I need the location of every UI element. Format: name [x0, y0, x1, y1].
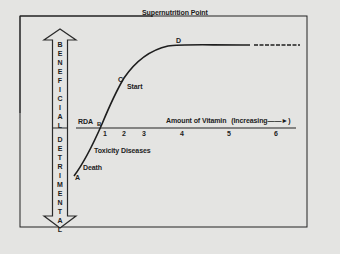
rda-label: RDA — [78, 118, 93, 125]
supernutrition-label: Supernutrition Point — [142, 9, 208, 16]
toxicity-diseases-label: Toxicity Diseases — [94, 147, 151, 154]
vertical-letter: T — [56, 207, 64, 216]
beneficial-text: BENEFICIAL — [56, 40, 64, 130]
tick-1: 1 — [103, 130, 107, 137]
point-b-letter: B — [97, 121, 101, 127]
detrimental-text: DETRIMENTAL — [56, 135, 64, 234]
point-c-letter: C — [118, 76, 123, 83]
point-a-letter: A — [75, 174, 80, 181]
dose-response-curve — [74, 45, 250, 176]
point-d-letter: D — [176, 37, 181, 44]
vertical-letter: N — [56, 198, 64, 207]
vertical-letter: E — [56, 67, 64, 76]
vertical-letter: A — [56, 112, 64, 121]
vertical-letter: F — [56, 76, 64, 85]
vertical-letter: E — [56, 144, 64, 153]
vertical-letter: D — [56, 135, 64, 144]
diagram-svg — [0, 0, 340, 254]
vertical-letter: C — [56, 94, 64, 103]
vertical-letter: T — [56, 153, 64, 162]
tick-5: 5 — [227, 130, 231, 137]
vertical-letter: N — [56, 58, 64, 67]
vertical-letter: L — [56, 121, 64, 130]
arrow-right-icon: ——►) — [268, 117, 291, 124]
vertical-letter: E — [56, 189, 64, 198]
vertical-letter: M — [56, 180, 64, 189]
tick-2: 2 — [122, 130, 126, 137]
vertical-letter: E — [56, 49, 64, 58]
start-label: Start — [127, 83, 142, 90]
vertical-letter: R — [56, 162, 64, 171]
vertical-letter: A — [56, 216, 64, 225]
tick-3: 3 — [142, 130, 146, 137]
frame-border — [20, 16, 153, 113]
tick-6: 6 — [274, 130, 278, 137]
detrimental-label: DETRIMENTAL — [56, 135, 64, 234]
death-label: Death — [83, 164, 102, 171]
vertical-letter: I — [56, 171, 64, 180]
vertical-letter: L — [56, 225, 64, 234]
vertical-letter: I — [56, 85, 64, 94]
vertical-letter: B — [56, 40, 64, 49]
x-axis-label: Amount of Vitamin (Increasing——►) — [166, 117, 290, 124]
x-axis-direction: (Increasing — [231, 117, 267, 124]
x-axis-title: Amount of Vitamin — [166, 117, 226, 124]
beneficial-label: BENEFICIAL — [56, 40, 64, 130]
vertical-letter: I — [56, 103, 64, 112]
tick-4: 4 — [180, 130, 184, 137]
